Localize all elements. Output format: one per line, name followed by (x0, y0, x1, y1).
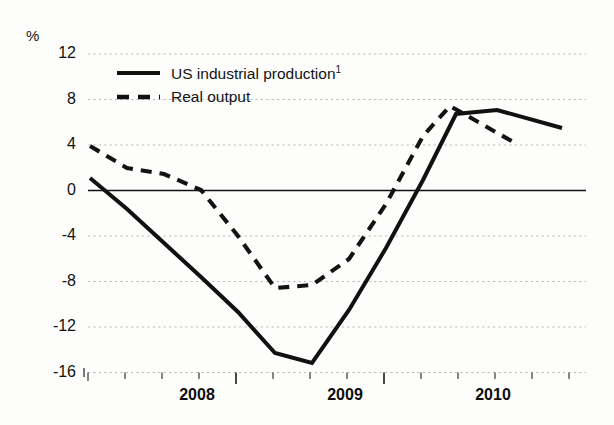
y-tick-label-neg8: -8 (28, 272, 76, 290)
legend-label-text-1: Real output (171, 88, 250, 105)
y-tick-label-neg12: -12 (28, 317, 76, 335)
y-tick-label-4: 4 (28, 135, 76, 153)
legend-label-text-0: US industrial production (171, 65, 336, 82)
legend-entry-us-industrial-production: US industrial production1 (171, 64, 341, 83)
chart-container: % 12 8 4 0 -4 -8 -12 -16 2008 2009 2010 … (0, 0, 614, 425)
y-tick-label-12: 12 (28, 44, 76, 62)
y-tick-label-neg16: -16 (28, 363, 76, 381)
y-tick-label-8: 8 (28, 90, 76, 108)
y-tick-label-neg4: -4 (28, 226, 76, 244)
x-axis-minor-ticks (88, 373, 569, 382)
legend-entry-real-output: Real output (171, 88, 250, 106)
y-tick-label-0: 0 (28, 181, 76, 199)
x-tick-label-2010: 2010 (458, 386, 528, 404)
legend-footnote-marker-0: 1 (336, 64, 342, 75)
y-axis-unit-label: % (26, 27, 39, 44)
x-tick-label-2009: 2009 (310, 386, 380, 404)
x-tick-label-2008: 2008 (162, 386, 232, 404)
series-line-real-output (90, 106, 515, 288)
